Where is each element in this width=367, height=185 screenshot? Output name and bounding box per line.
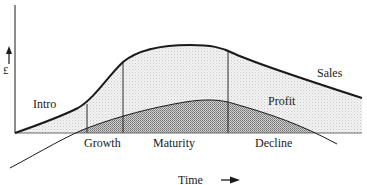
series-label-sales: Sales	[317, 67, 342, 79]
product-life-cycle-chart	[0, 0, 367, 185]
stage-label-maturity: Maturity	[153, 137, 195, 149]
y-axis-arrow-icon	[6, 46, 12, 54]
time-arrow-icon	[230, 177, 240, 184]
series-label-profit: Profit	[268, 95, 295, 107]
stage-label-intro: Intro	[33, 98, 56, 110]
stage-label-decline: Decline	[255, 137, 292, 149]
x-axis-label-time: Time	[178, 174, 203, 185]
y-axis-label-currency: £	[3, 64, 9, 76]
stage-label-growth: Growth	[84, 137, 121, 149]
